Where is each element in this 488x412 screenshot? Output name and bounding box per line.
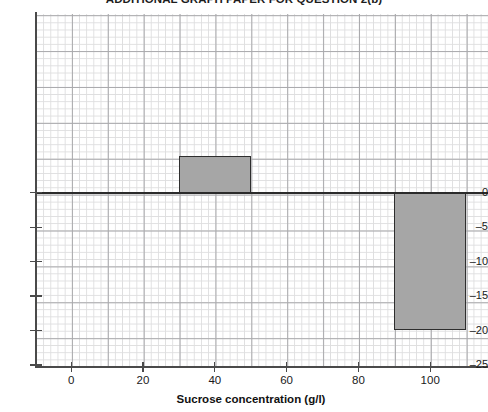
graph-page: ADDITIONAL GRAPH PAPER FOR QUESTION 2(b)… <box>0 0 488 412</box>
y-tick-label: –25 <box>454 358 488 370</box>
x-axis-title: Sucrose concentration (g/l) <box>36 393 466 405</box>
y-tick-label: –10 <box>454 255 488 267</box>
y-tick-mark <box>30 330 42 331</box>
x-tick-label: 40 <box>193 374 237 386</box>
x-tick-mark <box>142 362 143 372</box>
x-tick-label: 80 <box>336 374 380 386</box>
y-tick-mark <box>30 364 42 365</box>
x-tick-label: 0 <box>49 374 93 386</box>
x-tick-label: 20 <box>121 374 165 386</box>
y-tick-label: –20 <box>454 324 488 336</box>
x-tick-mark <box>71 362 72 372</box>
y-tick-mark <box>30 261 42 262</box>
x-axis-line <box>35 366 488 368</box>
y-tick-mark <box>30 227 42 228</box>
y-tick-mark <box>30 295 42 296</box>
zero-baseline <box>35 192 488 194</box>
y-axis-line <box>35 12 37 368</box>
bar <box>179 156 251 192</box>
y-tick-label: 0 <box>454 186 488 198</box>
y-tick-mark <box>30 192 42 193</box>
page-title: ADDITIONAL GRAPH PAPER FOR QUESTION 2(b) <box>0 0 488 5</box>
y-tick-label: –5 <box>454 220 488 232</box>
x-tick-mark <box>430 362 431 372</box>
x-tick-label: 100 <box>408 374 452 386</box>
x-tick-label: 60 <box>265 374 309 386</box>
plot-area <box>36 14 488 366</box>
x-tick-mark <box>214 362 215 372</box>
y-tick-label: –15 <box>454 289 488 301</box>
x-tick-mark <box>358 362 359 372</box>
x-tick-mark <box>286 362 287 372</box>
